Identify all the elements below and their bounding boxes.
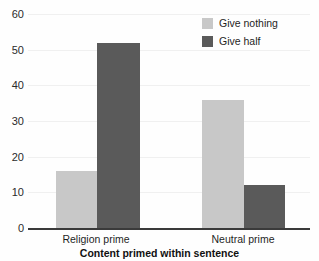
legend: Give nothing Give half bbox=[202, 15, 278, 51]
bar-chart: 0102030405060 Religion prime Neutral pri… bbox=[0, 0, 319, 261]
bar bbox=[202, 100, 244, 228]
legend-item-give-half: Give half bbox=[202, 33, 278, 49]
bar bbox=[56, 171, 97, 228]
y-tick-label: 0 bbox=[0, 223, 24, 234]
dark-gray-swatch-icon bbox=[202, 36, 213, 47]
bar bbox=[97, 43, 140, 228]
light-gray-swatch-icon bbox=[202, 18, 213, 29]
y-tick-label: 40 bbox=[0, 80, 24, 91]
y-tick-label: 30 bbox=[0, 116, 24, 127]
y-tick-label: 20 bbox=[0, 152, 24, 163]
x-axis-title: Content primed within sentence bbox=[0, 247, 319, 259]
legend-item-give-nothing: Give nothing bbox=[202, 15, 278, 31]
x-axis-line bbox=[28, 228, 310, 230]
legend-label-give-half: Give half bbox=[219, 35, 260, 47]
legend-label-give-nothing: Give nothing bbox=[219, 17, 278, 29]
y-tick-label: 60 bbox=[0, 9, 24, 20]
category-label-religion-prime: Religion prime bbox=[46, 233, 146, 245]
y-tick-label: 10 bbox=[0, 187, 24, 198]
y-tick-label: 50 bbox=[0, 45, 24, 56]
category-label-neutral-prime: Neutral prime bbox=[193, 233, 293, 245]
bar bbox=[244, 185, 285, 228]
